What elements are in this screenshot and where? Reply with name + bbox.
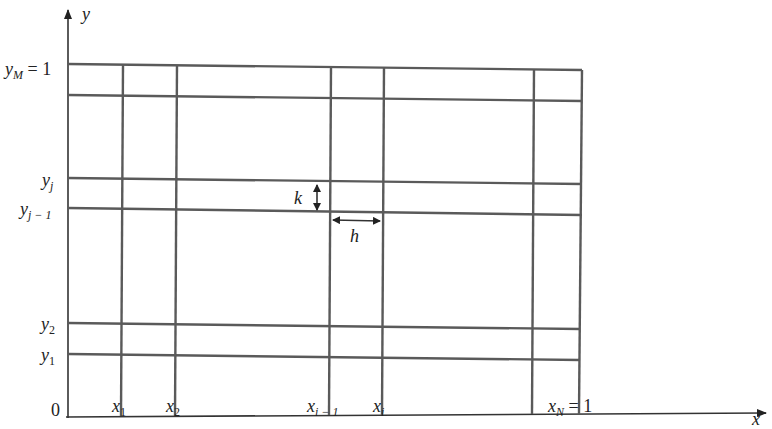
- x-tick-label-2: x2: [165, 396, 180, 419]
- grid-line-y-j-minus-1: [68, 208, 582, 215]
- grid-line-x-1: [121, 65, 123, 416]
- k-label: k: [294, 188, 303, 208]
- y-tick-label-j-minus-1: yj − 1: [18, 199, 51, 222]
- x-tick-label-i-minus-1: xi − 1: [306, 396, 338, 419]
- grid-line-x-2: [175, 65, 177, 416]
- grid-line-x-i-minus-1: [329, 67, 331, 415]
- grid-line-x-N-minus-1: [532, 69, 534, 414]
- h-step-arrow: [333, 220, 380, 221]
- h-label: h: [350, 226, 359, 246]
- y-tick-label-M: yM = 1: [3, 59, 51, 82]
- horizontal-grid-lines: [68, 64, 582, 360]
- y-tick-label-j: yj: [40, 170, 54, 193]
- y-axis-label: y: [80, 4, 90, 24]
- grid-line-x-N: [579, 70, 582, 414]
- x-tick-label-N: xN = 1: [547, 396, 592, 419]
- grid-line-y-2: [68, 323, 580, 329]
- y-tick-label-2: y2: [39, 314, 55, 337]
- x-axis-label: x: [751, 409, 760, 429]
- grid-line-x-i: [382, 67, 384, 415]
- grid-line-y-1: [68, 354, 580, 360]
- y-tick-labels: yM = 1 yj yj − 1 y2 y1: [3, 59, 55, 368]
- origin-label: 0: [51, 400, 60, 420]
- grid-line-y-M: [68, 64, 582, 70]
- x-tick-label-1: x1: [111, 396, 126, 419]
- grid-diagram: y x 0 k h yM = 1 yj yj − 1 y2 y1 x1 x2 x…: [0, 0, 772, 429]
- y-tick-label-1: y1: [39, 345, 55, 368]
- grid-line-y-j: [68, 178, 582, 184]
- grid-line-y-M-minus-1: [68, 95, 582, 101]
